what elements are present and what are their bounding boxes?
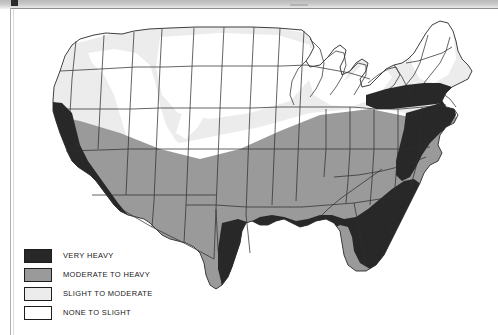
scan-artifact-speck <box>290 4 308 6</box>
legend-label-moderate-to-heavy: MODERATE TO HEAVY <box>63 270 150 279</box>
legend-item-none-to-slight: NONE TO SLIGHT <box>24 304 224 321</box>
legend-swatch-none-to-slight <box>24 306 52 320</box>
scan-artifact-corner-mark <box>11 0 18 6</box>
legend-swatch-slight-to-moderate <box>24 287 52 301</box>
legend-item-moderate-to-heavy: MODERATE TO HEAVY <box>24 266 224 283</box>
legend-label-slight-to-moderate: SLIGHT TO MODERATE <box>63 289 153 298</box>
legend-label-very-heavy: VERY HEAVY <box>63 251 114 260</box>
map-legend: VERY HEAVY MODERATE TO HEAVY SLIGHT TO M… <box>24 247 224 323</box>
legend-swatch-very-heavy <box>24 249 52 263</box>
screenshot-page: VERY HEAVY MODERATE TO HEAVY SLIGHT TO M… <box>0 0 498 335</box>
legend-item-slight-to-moderate: SLIGHT TO MODERATE <box>24 285 224 302</box>
legend-label-none-to-slight: NONE TO SLIGHT <box>63 308 131 317</box>
legend-swatch-moderate-to-heavy <box>24 268 52 282</box>
legend-item-very-heavy: VERY HEAVY <box>24 247 224 264</box>
